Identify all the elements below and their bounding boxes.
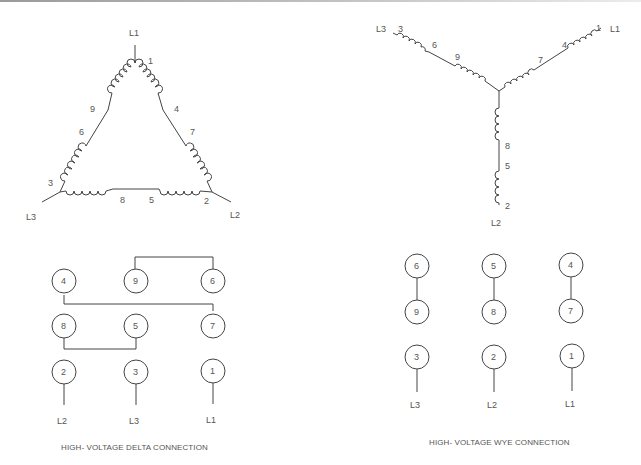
wye-terminal-label: 4 bbox=[568, 260, 573, 270]
delta-l3-label: L3 bbox=[26, 212, 36, 222]
wye-l1-label: L1 bbox=[610, 24, 620, 34]
delta-winding-5: 5 bbox=[149, 195, 154, 205]
delta-winding-8: 8 bbox=[120, 195, 125, 205]
delta-winding-2: 2 bbox=[204, 196, 209, 206]
delta-l2-label: L2 bbox=[230, 210, 240, 220]
wye-winding-3: 3 bbox=[398, 24, 403, 34]
delta-line-label: L3 bbox=[129, 416, 139, 426]
delta-schematic: L1 L3 L2 1 4 7 2 5 8 3 6 9 bbox=[26, 28, 240, 222]
wye-terminal-label: 2 bbox=[491, 352, 496, 362]
wye-winding-4: 4 bbox=[562, 40, 567, 50]
wye-caption: HIGH- VOLTAGE WYE CONNECTION bbox=[429, 438, 570, 447]
delta-terminal-label: 6 bbox=[210, 276, 215, 286]
wiring-diagrams: L1 L3 L2 1 4 7 2 5 8 3 6 9 L3 L1 L2 1 4 … bbox=[0, 0, 641, 465]
delta-winding-3: 3 bbox=[48, 178, 53, 188]
delta-winding-4: 4 bbox=[174, 104, 179, 114]
wye-winding-1: 1 bbox=[596, 23, 601, 33]
wye-terminal-block: 6 5 4 9 8 7 3 2 1 L3 L2 L1 HIGH- VOLTAGE… bbox=[405, 253, 584, 447]
wye-winding-6: 6 bbox=[432, 40, 437, 50]
wye-terminal-label: 5 bbox=[491, 261, 496, 271]
wye-terminal-label: 1 bbox=[569, 351, 574, 361]
delta-terminal-label: 5 bbox=[133, 321, 138, 331]
wye-line-label: L2 bbox=[487, 400, 497, 410]
delta-l1-label: L1 bbox=[129, 28, 139, 38]
wye-schematic: L3 L1 L2 1 4 7 2 5 8 3 6 9 bbox=[376, 23, 620, 228]
wye-terminal-label: 6 bbox=[414, 261, 419, 271]
delta-terminal-label: 8 bbox=[61, 321, 66, 331]
wye-l3-label: L3 bbox=[376, 24, 386, 34]
wye-winding-9: 9 bbox=[455, 52, 460, 62]
wye-terminal-label: 9 bbox=[414, 307, 419, 317]
delta-terminal-label: 1 bbox=[210, 366, 215, 376]
wye-winding-5: 5 bbox=[505, 161, 510, 171]
delta-line-label: L2 bbox=[57, 416, 67, 426]
wye-terminal-label: 7 bbox=[568, 306, 573, 316]
delta-terminal-label: 3 bbox=[133, 367, 138, 377]
delta-winding-7: 7 bbox=[190, 127, 195, 137]
delta-line-label: L1 bbox=[206, 415, 216, 425]
wye-terminal-label: 8 bbox=[491, 307, 496, 317]
delta-terminal-label: 7 bbox=[210, 321, 215, 331]
wye-winding-8: 8 bbox=[505, 141, 510, 151]
wye-line-label: L3 bbox=[410, 400, 420, 410]
wye-terminal-label: 3 bbox=[414, 352, 419, 362]
delta-caption: HIGH- VOLTAGE DELTA CONNECTION bbox=[61, 443, 208, 452]
wye-l2-label: L2 bbox=[491, 218, 501, 228]
wye-winding-2: 2 bbox=[505, 201, 510, 211]
delta-winding-1: 1 bbox=[148, 56, 153, 66]
delta-terminal-label: 4 bbox=[61, 276, 66, 286]
delta-terminal-label: 2 bbox=[61, 367, 66, 377]
delta-winding-6: 6 bbox=[79, 127, 84, 137]
delta-winding-9: 9 bbox=[90, 104, 95, 114]
wye-winding-7: 7 bbox=[538, 55, 543, 65]
wye-line-label: L1 bbox=[565, 399, 575, 409]
delta-terminal-label: 9 bbox=[133, 276, 138, 286]
delta-terminal-block: 4 9 6 8 5 7 2 3 1 L2 L3 L1 HIGH- VOLTAGE… bbox=[52, 257, 225, 452]
